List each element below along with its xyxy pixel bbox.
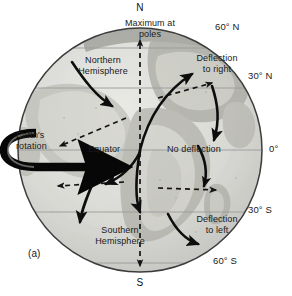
latitude-label-equator-0: 0° xyxy=(269,144,278,155)
latitude-label-60s: 60° S xyxy=(213,256,237,267)
annotation-maximum-at-poles: Maximum at poles xyxy=(112,18,188,39)
annotation-deflection-to-right: Deflection to right xyxy=(186,53,248,74)
annotation-earths-rotation: Earth's rotation xyxy=(16,130,47,151)
latitude-label-60n: 60° N xyxy=(215,22,239,33)
coriolis-effect-figure: N S 60° N 30° N 0° 30° S 60° S Maximum a… xyxy=(0,0,292,296)
latitude-label-30n: 30° N xyxy=(248,71,272,82)
pole-label-south: S xyxy=(125,278,155,289)
pole-label-north: N xyxy=(125,3,155,14)
annotation-equator: Equator xyxy=(88,144,120,155)
latitude-label-30s: 30° S xyxy=(248,205,272,216)
annotation-no-deflection: No deflection xyxy=(167,144,221,155)
panel-label: (a) xyxy=(28,249,41,260)
annotation-southern-hemisphere: Southern Hemisphere xyxy=(83,225,157,246)
annotation-northern-hemisphere: Northern Hemisphere xyxy=(66,55,140,76)
annotation-deflection-to-left: Deflection to left xyxy=(186,214,248,235)
